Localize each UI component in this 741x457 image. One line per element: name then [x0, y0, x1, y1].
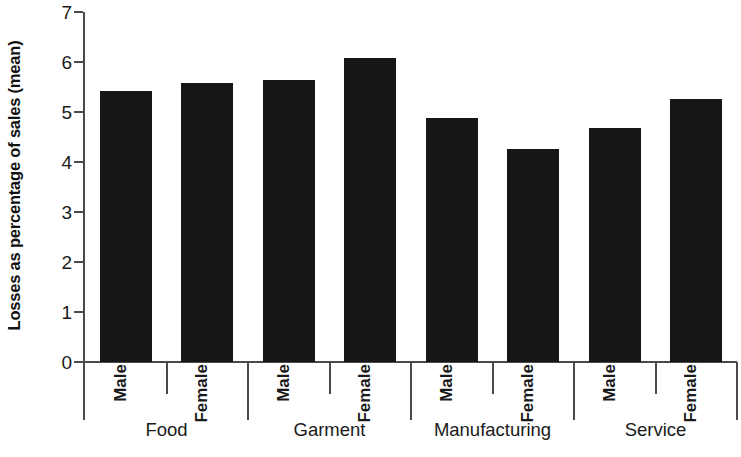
y-tick-mark: [74, 11, 83, 13]
subcategory-label: Female: [334, 362, 394, 420]
y-tick-label: 2: [61, 253, 72, 272]
subcategory-label: Female: [497, 362, 557, 420]
subcategory-label-text: Male: [600, 364, 617, 402]
group-label: Service: [556, 420, 741, 440]
y-tick-label: 3: [61, 203, 72, 222]
y-tick-mark: [74, 311, 83, 313]
subcategory-label: Male: [416, 362, 476, 420]
bar[interactable]: [426, 118, 478, 362]
bar[interactable]: [507, 149, 559, 362]
plot-area: [85, 0, 737, 362]
y-tick-mark: [74, 261, 83, 263]
group-labels: FoodGarmentManufacturingService: [0, 420, 741, 454]
subcategory-label-text: Male: [437, 364, 454, 402]
bar[interactable]: [589, 128, 641, 363]
subcategory-label-text: Male: [111, 364, 128, 402]
y-tick-mark: [74, 211, 83, 213]
y-axis-tick-labels: 76543210: [38, 0, 74, 380]
subcategory-label: Male: [579, 362, 639, 420]
bar[interactable]: [263, 80, 315, 362]
bar[interactable]: [100, 91, 152, 362]
y-tick-mark: [74, 161, 83, 163]
y-tick-mark: [74, 61, 83, 63]
y-tick-label: 1: [61, 303, 72, 322]
y-tick-label: 7: [61, 3, 72, 22]
subcategory-label-text: Female: [356, 364, 373, 423]
subcategory-label: Male: [90, 362, 150, 420]
y-tick-label: 4: [61, 153, 72, 172]
y-axis-title-text: Losses as percentage of sales (mean): [6, 40, 25, 330]
y-tick-label: 6: [61, 53, 72, 72]
bar-chart: Losses as percentage of sales (mean) 765…: [0, 0, 741, 457]
bar[interactable]: [181, 83, 233, 362]
subcategory-label: Female: [171, 362, 231, 420]
y-tick-mark: [74, 111, 83, 113]
subcategory-label: Female: [660, 362, 720, 420]
y-tick-label: 5: [61, 103, 72, 122]
bar[interactable]: [344, 58, 396, 362]
subcategory-label-text: Female: [682, 364, 699, 423]
subcategory-label: Male: [253, 362, 313, 420]
subcategory-label-text: Female: [193, 364, 210, 423]
y-axis-title: Losses as percentage of sales (mean): [0, 0, 30, 370]
subcategory-label-text: Male: [274, 364, 291, 402]
subcategory-label-text: Female: [519, 364, 536, 423]
subcategory-labels: MaleFemaleMaleFemaleMaleFemaleMaleFemale: [0, 362, 741, 422]
bar[interactable]: [670, 99, 722, 362]
